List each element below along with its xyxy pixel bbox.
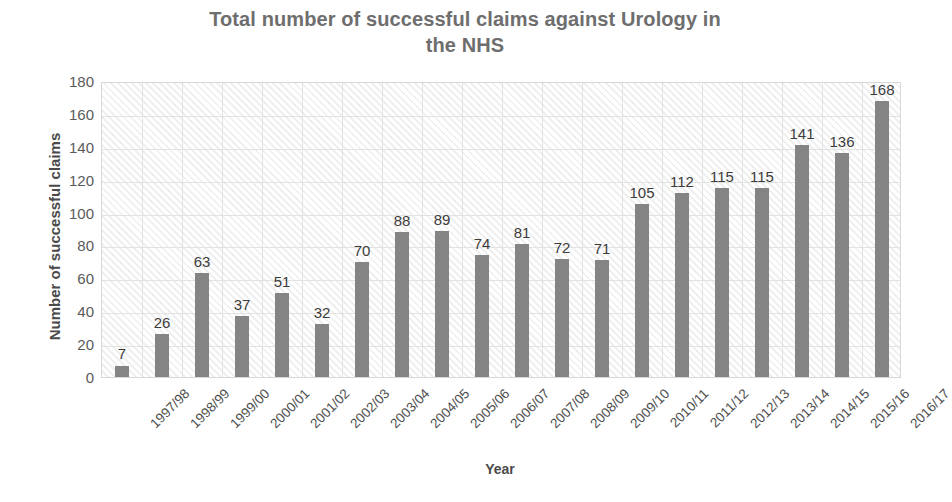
gridline-vertical [342, 83, 343, 377]
bar-value-label: 26 [139, 314, 185, 331]
bar[interactable] [475, 255, 489, 377]
bar[interactable] [435, 231, 449, 377]
gridline-vertical [142, 83, 143, 377]
x-axis-tick-label: 2008/09 [587, 386, 632, 431]
bar[interactable] [795, 145, 809, 377]
x-axis-tick-label: 2014/15 [827, 386, 872, 431]
bar-value-label: 168 [859, 81, 905, 98]
x-axis-tick-label: 2010/11 [667, 386, 711, 430]
gridline-vertical [302, 83, 303, 377]
gridline-vertical [182, 83, 183, 377]
x-axis-tick-label: 2003/04 [387, 386, 432, 431]
gridline-vertical [702, 83, 703, 377]
chart-title: Total number of successful claims agains… [120, 6, 810, 58]
bar[interactable] [635, 204, 649, 377]
gridline-vertical [222, 83, 223, 377]
bar[interactable] [395, 232, 409, 377]
bar-value-label: 71 [579, 240, 625, 257]
bar[interactable] [675, 193, 689, 377]
bar-value-label: 7 [99, 345, 145, 362]
y-axis-tick-label: 80 [48, 237, 94, 254]
gridline-vertical [662, 83, 663, 377]
gridline-vertical [622, 83, 623, 377]
bar[interactable] [835, 153, 849, 377]
bar[interactable] [595, 260, 609, 377]
y-axis-tick-label: 100 [48, 205, 94, 222]
x-axis-tick-labels: 1997/981998/991999/002000/012001/022002/… [101, 378, 901, 458]
bar[interactable] [875, 101, 889, 377]
bar[interactable] [155, 334, 169, 377]
x-axis-tick-label: 2006/07 [507, 386, 552, 431]
x-axis-tick-label: 2011/12 [707, 386, 751, 430]
bar[interactable] [755, 188, 769, 377]
bar[interactable] [355, 262, 369, 377]
bar-value-label: 115 [739, 168, 785, 185]
x-axis-tick-label: 2009/10 [627, 386, 672, 431]
bar[interactable] [555, 259, 569, 377]
x-axis-tick-label: 2013/14 [787, 386, 832, 431]
x-axis-tick-label: 2001/02 [307, 386, 352, 431]
y-axis-tick-labels: 020406080100120140160180 [42, 82, 94, 378]
x-axis-tick-label: 2002/03 [347, 386, 392, 431]
bar-value-label: 70 [339, 242, 385, 259]
bar-value-label: 89 [419, 211, 465, 228]
bar-value-label: 63 [179, 253, 225, 270]
y-axis-tick-label: 20 [48, 336, 94, 353]
gridline-vertical [742, 83, 743, 377]
gridline-vertical [422, 83, 423, 377]
y-axis-tick-label: 120 [48, 172, 94, 189]
y-axis-tick-label: 60 [48, 270, 94, 287]
bar-value-label: 37 [219, 296, 265, 313]
x-axis-tick-label: 1999/00 [227, 386, 272, 431]
y-axis-tick-label: 40 [48, 303, 94, 320]
plot-area: 7266337513270888974817271105112115115141… [101, 82, 901, 378]
bar[interactable] [515, 244, 529, 377]
x-axis-tick-label: 2004/05 [427, 386, 472, 431]
x-axis-tick-label: 1998/99 [187, 386, 232, 431]
bar-value-label: 32 [299, 304, 345, 321]
y-axis-tick-label: 180 [48, 73, 94, 90]
gridline-vertical [582, 83, 583, 377]
y-axis-tick-label: 140 [48, 139, 94, 156]
gridline-vertical [382, 83, 383, 377]
bar[interactable] [195, 273, 209, 377]
bar-value-label: 51 [259, 273, 305, 290]
bar[interactable] [275, 293, 289, 377]
y-axis-tick-label: 0 [48, 369, 94, 386]
chart-title-line-2: the NHS [120, 32, 810, 58]
x-axis-tick-label: 2015/16 [867, 386, 912, 431]
x-axis-tick-label: 2007/08 [547, 386, 592, 431]
x-axis-tick-label: 1997/98 [147, 386, 192, 431]
gridline-vertical [862, 83, 863, 377]
bar[interactable] [235, 316, 249, 377]
x-axis-tick-label: 2005/06 [467, 386, 512, 431]
y-axis-tick-label: 160 [48, 106, 94, 123]
x-axis-tick-label: 2012/13 [747, 386, 792, 431]
bar[interactable] [315, 324, 329, 377]
x-axis-tick-label: 2016/17 [907, 386, 952, 431]
gridline-vertical [462, 83, 463, 377]
x-axis-tick-label: 2000/01 [267, 386, 312, 431]
bar[interactable] [715, 188, 729, 377]
bar[interactable] [115, 366, 129, 378]
x-axis-title: Year [100, 461, 900, 477]
bar-value-label: 136 [819, 133, 865, 150]
chart-title-line-1: Total number of successful claims agains… [120, 6, 810, 32]
gridline-vertical [262, 83, 263, 377]
